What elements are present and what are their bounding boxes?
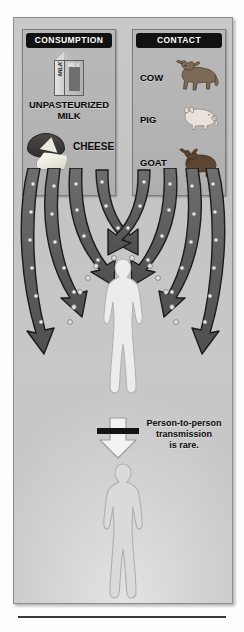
down-arrow-shape — [100, 418, 136, 458]
label-cow: COW — [140, 73, 163, 83]
infected-person-figure — [90, 256, 156, 396]
bottom-rule — [18, 616, 226, 618]
label-unpasteurized-milk-line1: UNPASTEURIZED — [29, 99, 109, 110]
label-pig: PIG — [140, 115, 156, 125]
milk-carton-icon: MILK MILK — [54, 52, 84, 96]
blocking-bar — [97, 428, 139, 434]
label-unpasteurized-milk-line2: MILK — [23, 111, 115, 121]
carton-front-text: MILK — [65, 62, 83, 68]
card-consumption-header: CONSUMPTION — [26, 33, 112, 48]
card-contact-header-label: CONTACT — [157, 36, 201, 45]
note-line-1: Person-to-person — [141, 418, 227, 429]
card-consumption-header-label: CONSUMPTION — [35, 36, 104, 45]
pig-icon — [175, 102, 219, 132]
cheese-wheel-icon — [27, 133, 73, 173]
poster-panel: CONSUMPTION MILK MILK UNPASTEURIZED MILK — [13, 17, 233, 604]
label-unpasteurized-milk: UNPASTEURIZED MILK — [23, 100, 115, 121]
note-person-to-person: Person-to-person transmission is rare. — [141, 418, 227, 451]
infographic-root: CONSUMPTION MILK MILK UNPASTEURIZED MILK — [0, 0, 244, 632]
cow-icon — [171, 56, 221, 96]
second-person-figure — [90, 461, 156, 601]
carton-front-band — [69, 67, 80, 91]
note-line-3: is rare. — [141, 440, 227, 451]
card-contact-header: CONTACT — [136, 33, 222, 48]
blocked-down-arrow-icon — [97, 416, 139, 460]
label-goat: GOAT — [140, 158, 167, 168]
carton-side-text: MILK — [57, 57, 63, 81]
label-cheese: CHEESE — [73, 142, 114, 153]
note-line-2: transmission — [141, 429, 227, 440]
